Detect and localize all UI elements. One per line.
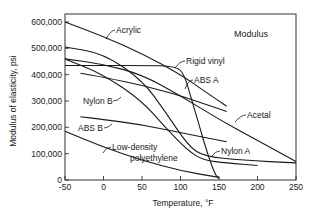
x-tick-label: 0	[101, 182, 106, 192]
x-axis-label: Temperature, °F	[152, 198, 213, 208]
label-acetal: Acetal	[247, 110, 271, 120]
leader-rigid-vinyl	[175, 61, 185, 68]
leader-ldpe	[103, 147, 111, 153]
y-tick-label: 0	[57, 175, 62, 185]
y-tick-label: 200,000	[31, 122, 62, 132]
y-axis-label: Modulus of elasticity, psi	[8, 55, 18, 147]
y-tick-label: 400,000	[31, 70, 62, 80]
leader-acetal	[235, 115, 246, 122]
x-tick-label: 250	[289, 182, 303, 192]
label-ldpe-line1: Low-density	[112, 142, 158, 152]
axes: -500501001502002500100,000200,000300,000…	[31, 14, 303, 192]
y-tick-label: 500,000	[31, 43, 62, 53]
x-tick-label: 100	[173, 182, 187, 192]
modulus-chart: -500501001502002500100,000200,000300,000…	[0, 0, 314, 217]
y-tick-label: 100,000	[31, 149, 62, 159]
label-abs-a: ABS A	[194, 75, 219, 85]
leader-abs-b	[104, 124, 112, 128]
label-rigid-vinyl: Rigid vinyl	[186, 56, 225, 66]
leader-nylon-a	[212, 151, 220, 156]
y-tick-label: 600,000	[31, 17, 62, 27]
chart-title: Modulus	[234, 29, 269, 39]
leader-nylon-b	[113, 97, 121, 101]
x-tick-label: 200	[250, 182, 264, 192]
x-tick-label: 150	[212, 182, 226, 192]
label-nylon-b: Nylon B	[83, 96, 113, 106]
label-nylon-a: Nylon A	[221, 146, 251, 156]
label-abs-b: ABS B	[78, 123, 103, 133]
label-ldpe-line2: polyethylene	[130, 153, 178, 163]
label-acrylic: Acrylic	[116, 25, 142, 35]
x-tick-label: 50	[137, 182, 147, 192]
y-tick-label: 300,000	[31, 96, 62, 106]
leader-acrylic	[106, 30, 115, 39]
